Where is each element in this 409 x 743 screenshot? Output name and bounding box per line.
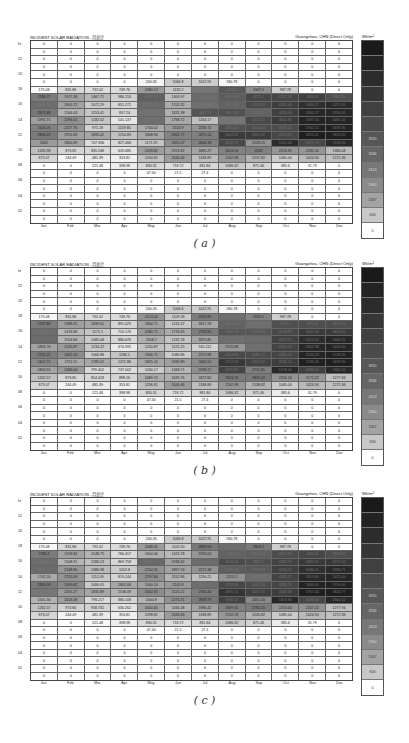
hour-label: 02 [18, 209, 28, 213]
heatmap-cell: 0 [85, 506, 112, 513]
heatmap-cell: 3105.33 [219, 336, 246, 343]
heatmap-cell: 0 [138, 657, 165, 664]
heatmap-cell: 0 [85, 178, 112, 185]
heatmap-cell: 1182.02 [85, 117, 112, 124]
heatmap-cell: 0 [111, 427, 138, 434]
heatmap-cell: 3807.74 [192, 109, 219, 116]
heatmap-cell: 5708.32 [326, 352, 352, 359]
heatmap-cell: 0 [326, 443, 352, 451]
heatmap-cell: 0 [246, 178, 273, 185]
heatmap-cell: 0 [192, 443, 219, 451]
month-label: May [138, 451, 165, 455]
heatmap-cell: 0 [272, 200, 299, 207]
table-row: 000000000000 [31, 283, 352, 291]
heatmap-cell: 0 [272, 306, 299, 313]
heatmap-cell: 0 [165, 635, 192, 642]
month-label: Dec [326, 224, 353, 228]
hour-label: 10 [18, 375, 28, 379]
heatmap-cell: 732.02 [85, 87, 112, 94]
heatmap-cell: 749.76 [111, 87, 138, 94]
heatmap-cell: 0 [58, 627, 85, 634]
heatmap-cell: 4345.05 [272, 344, 299, 351]
heatmap-cell: 0 [219, 185, 246, 192]
heatmap-cell: 0 [31, 657, 58, 664]
heatmap-cell: 3225.81 [192, 94, 219, 101]
heatmap-cell: 0 [31, 642, 58, 649]
heatmap-cell: 0 [165, 185, 192, 192]
heatmap-cell: 21.5 [165, 397, 192, 404]
heatmap-cell: 1086.32 [219, 163, 246, 170]
legend-swatch [362, 314, 383, 329]
heatmap-cell: 1262.57 [31, 374, 58, 381]
heatmap-cell: 2171.22 [299, 374, 326, 381]
heatmap-cell: 0 [219, 405, 246, 412]
month-label: Jul [192, 224, 219, 228]
heatmap-grid: 0000000000000000000000000000000000000000… [30, 497, 353, 681]
heatmap-cell: 0 [111, 673, 138, 681]
heatmap-cell: 2040.46 [165, 382, 192, 389]
heatmap-cell: 180.78 [219, 306, 246, 313]
heatmap-cell: 0 [272, 405, 299, 412]
heatmap-cell: 0 [299, 397, 326, 404]
heatmap-cell: 4265.80 [219, 367, 246, 374]
heatmap-cell: 0 [138, 298, 165, 305]
heatmap-cell: 2806.22 [31, 132, 58, 139]
table-row: 000000000000 [31, 673, 352, 681]
heatmap-cell: 0 [138, 427, 165, 434]
heatmap-cell: 2307.5 [246, 87, 273, 94]
month-label: Oct [272, 681, 299, 685]
heatmap-cell: 0 [58, 56, 85, 63]
heatmap-cell: 0 [299, 521, 326, 528]
heatmap-cell: 0 [111, 443, 138, 451]
heatmap-cell: 5823.90 [326, 132, 352, 139]
table-row: 2752.222402.201066.881186.11966.711080.8… [31, 352, 352, 360]
heatmap-cell: 0 [219, 528, 246, 535]
heatmap-cell: 1875.85 [192, 336, 219, 343]
legend-swatch: 0 [362, 450, 383, 465]
heatmap-cell: 0 [326, 314, 352, 321]
heatmap-cell: 5218.01 [272, 367, 299, 374]
heatmap-cell: 4260.55 [272, 582, 299, 589]
heatmap-cell: 0 [272, 642, 299, 649]
heatmap-cell: 0 [272, 268, 299, 275]
table-row: 1863.912084.04799.402737.0021030.171468.… [31, 367, 352, 375]
heatmap-cell: 0 [272, 216, 299, 224]
heatmap-cell: 0 [31, 283, 58, 290]
heatmap-cell: 0 [192, 673, 219, 681]
heatmap-cell: 0 [111, 41, 138, 48]
heatmap-cell: 2162.98 [219, 155, 246, 162]
heatmap-cell: 0 [299, 412, 326, 419]
month-label: Aug [218, 681, 245, 685]
heatmap-cell: 0 [272, 528, 299, 535]
heatmap-cell: 0 [58, 216, 85, 224]
heatmap-cell: 0 [326, 405, 352, 412]
heatmap-cell: 0 [85, 64, 112, 71]
color-legend: 392032662613196013076560 [361, 497, 384, 696]
heatmap-cell: 4121.21 [246, 117, 273, 124]
heatmap-cell: 1424.94 [299, 155, 326, 162]
heatmap-cell: 0 [85, 657, 112, 664]
table-row: 2707.861988.911839.61891.0291864.711132.… [31, 321, 352, 329]
heatmap-cell: 4045.56 [246, 582, 273, 589]
heatmap-cell: 2103.9 [165, 125, 192, 132]
hour-label: 10 [18, 148, 28, 152]
hour-label: 18 [18, 314, 28, 318]
heatmap-cell: 0 [58, 41, 85, 48]
heatmap-cell: 4621.45 [246, 132, 273, 139]
heatmap-cell: 0 [58, 657, 85, 664]
heatmap-cell: 385.6 [272, 620, 299, 627]
heatmap-cell: 4491.46 [272, 102, 299, 109]
heatmap-cell: 2220.09 [58, 574, 85, 581]
heatmap-cell: 0 [111, 170, 138, 177]
heatmap-cell: 0 [192, 405, 219, 412]
heatmap-cell: 1877.82 [192, 374, 219, 381]
heatmap-cell: 0 [192, 635, 219, 642]
heatmap-cell: 1338.89 [192, 612, 219, 619]
table-row: 000000000000 [31, 216, 352, 224]
heatmap-cell: 1052.8 [111, 566, 138, 573]
heatmap-cell: 2613.53 [219, 147, 246, 154]
heatmap-cell: 121.48 [85, 390, 112, 397]
month-axis: JanFebMarAprMayJunJulAugSepOctNovDec [30, 681, 353, 685]
heatmap-cell: 0 [192, 71, 219, 78]
table-row: 000000000000 [31, 650, 352, 658]
